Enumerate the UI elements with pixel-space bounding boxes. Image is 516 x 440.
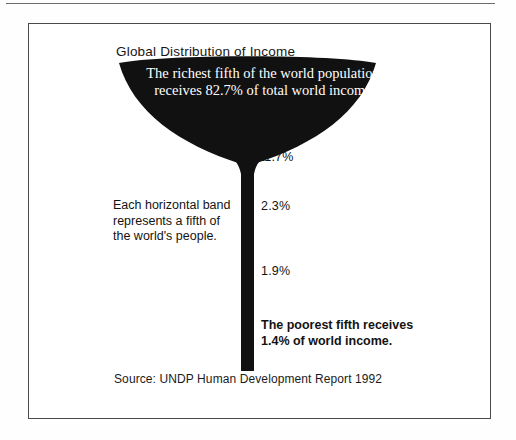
horizontal-band-note: Each horizontal band represents a fifth … — [113, 198, 230, 245]
caption-line-1: The richest fifth of the world populatio… — [129, 65, 397, 82]
figure-frame: Global Distribution of Income The riches… — [28, 23, 491, 419]
label-third-fifth-percent: 2.3% — [261, 199, 290, 213]
source-attribution: Source: UNDP Human Development Report 19… — [114, 372, 382, 386]
bottom-note-line-1: The poorest fifth receives — [261, 318, 413, 334]
caption-line-2: receives 82.7% of total world income — [129, 82, 397, 99]
left-note-line-3: the world's people. — [113, 229, 230, 245]
left-note-line-1: Each horizontal band — [113, 198, 230, 214]
richest-fifth-caption: The richest fifth of the world populatio… — [129, 65, 397, 98]
left-note-line-2: represents a fifth of — [113, 214, 230, 230]
poorest-fifth-note: The poorest fifth receives 1.4% of world… — [261, 318, 413, 349]
label-second-fifth-percent: 11.7% — [258, 150, 294, 164]
page-root: Global Distribution of Income The riches… — [0, 0, 516, 440]
label-fourth-fifth-percent: 1.9% — [261, 264, 290, 278]
bottom-note-line-2: 1.4% of world income. — [261, 334, 413, 350]
top-divider-rule — [6, 3, 495, 4]
